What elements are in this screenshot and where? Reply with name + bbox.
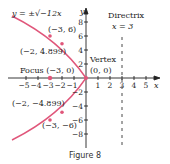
svg-text:3: 3 xyxy=(120,81,125,90)
point-label-m2-4899: (−2, 4.899) xyxy=(20,47,66,56)
point-m2-4899 xyxy=(60,42,64,46)
point-label-m3-6: (−3, 6) xyxy=(48,25,76,34)
svg-text:−4: −4 xyxy=(72,102,83,111)
svg-text:−2: −2 xyxy=(54,81,65,90)
svg-text:8: 8 xyxy=(78,18,83,27)
svg-text:2: 2 xyxy=(108,81,113,90)
y-axis-label: y xyxy=(79,7,85,16)
parabola-chart: y = ±√−12x (−3, 6) (−2, 4.899) Focus (−3… xyxy=(0,0,170,164)
svg-text:2: 2 xyxy=(78,60,83,69)
focus-label: Focus (−3, 0) xyxy=(20,66,74,75)
svg-text:−5: −5 xyxy=(18,81,29,90)
y-axis-arrow xyxy=(84,8,88,14)
svg-text:−3: −3 xyxy=(42,81,53,90)
point-label-m2-m4899: (−2, −4.899) xyxy=(12,99,65,108)
vertex-point xyxy=(84,76,88,80)
svg-text:5: 5 xyxy=(144,81,149,90)
svg-text:4: 4 xyxy=(78,46,83,55)
x-axis-label: x xyxy=(154,81,159,90)
svg-text:4: 4 xyxy=(132,81,137,90)
directrix-label: Directrix xyxy=(108,11,145,20)
svg-text:1: 1 xyxy=(96,81,101,90)
point-m3-6 xyxy=(48,34,52,38)
svg-text:−8: −8 xyxy=(72,130,83,139)
svg-text:−4: −4 xyxy=(30,81,41,90)
x-axis-arrow xyxy=(154,76,160,80)
svg-text:−2: −2 xyxy=(72,88,83,97)
figure-caption: Figure 8 xyxy=(0,151,170,160)
equation-label: y = ±√−12x xyxy=(11,9,62,18)
svg-text:−6: −6 xyxy=(72,116,83,125)
vertex-label: Vertex xyxy=(89,55,117,64)
directrix-equation: x = 3 xyxy=(112,22,133,31)
point-m2-m4899 xyxy=(60,111,64,115)
svg-text:6: 6 xyxy=(78,32,83,41)
origin-label: (0, 0) xyxy=(90,66,112,75)
focus-point xyxy=(48,76,52,80)
